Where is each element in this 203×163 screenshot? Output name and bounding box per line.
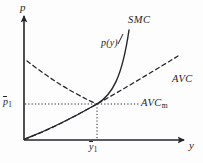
price-function-label: p(y)	[101, 38, 118, 48]
p-bar-subscript: 1	[8, 101, 12, 109]
p-bar-overline-group: p	[3, 97, 8, 107]
avc-min-curve	[27, 61, 97, 104]
avc-min-base: AVC	[141, 97, 162, 108]
avc-curve-label: AVC	[172, 74, 193, 85]
y-axis-label: p	[20, 2, 26, 13]
price-function-pointer	[118, 34, 123, 44]
smc-curve-label: SMC	[128, 15, 151, 26]
y-bar-subscript: 1	[94, 146, 98, 154]
p-bar-base: p	[3, 96, 8, 107]
y-bar-base: y	[89, 141, 94, 152]
x-axis-label: y	[189, 140, 194, 151]
avc-min-subscript: m	[162, 101, 168, 110]
economics-cost-curve-figure: p y SMC p(y) AVC AVCm p1 y1	[0, 0, 203, 163]
overline-bar	[89, 141, 93, 142]
avc-min-curve-label: AVCm	[141, 98, 168, 109]
y-bar-overline-group: y	[89, 142, 94, 152]
overline-bar	[3, 96, 7, 97]
price-tick-label: p1	[3, 97, 12, 109]
quantity-tick-label: y1	[89, 142, 97, 154]
